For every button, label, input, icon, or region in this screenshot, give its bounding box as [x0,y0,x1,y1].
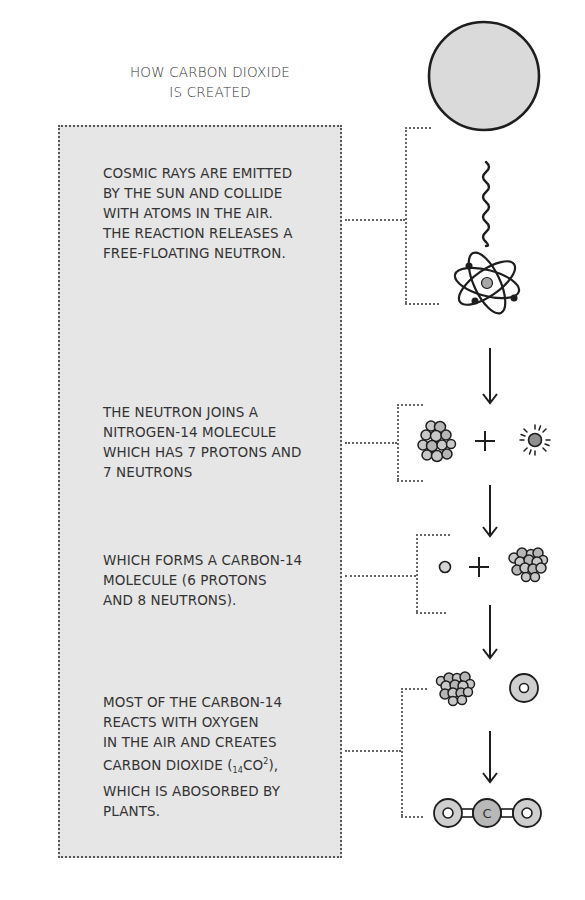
illustration-canvas: C [0,0,585,900]
sun-icon [429,22,539,130]
carbon-14-nucleus-icon [509,548,548,582]
oxygen-atom-left [434,799,462,827]
arrow-down-icon [483,348,497,403]
neutron-icon [520,425,550,455]
proton-icon [440,562,451,573]
nitrogen-nucleus-icon [418,421,456,462]
oxygen-atom-icon [510,674,538,702]
plus-icon [475,431,495,451]
cosmic-ray-wave-icon [483,162,489,246]
plus-icon [469,557,489,577]
carbon-atom-center: C [473,799,501,827]
arrow-down-icon [483,731,497,782]
carbon-label: C [482,806,491,821]
carbon-dioxide-molecule-icon: C [434,799,541,827]
atom-icon [452,248,522,319]
arrow-down-icon [483,485,497,536]
arrow-down-icon [483,605,497,658]
oxygen-atom-right [513,799,541,827]
carbon-14-nucleus-icon [437,672,475,706]
